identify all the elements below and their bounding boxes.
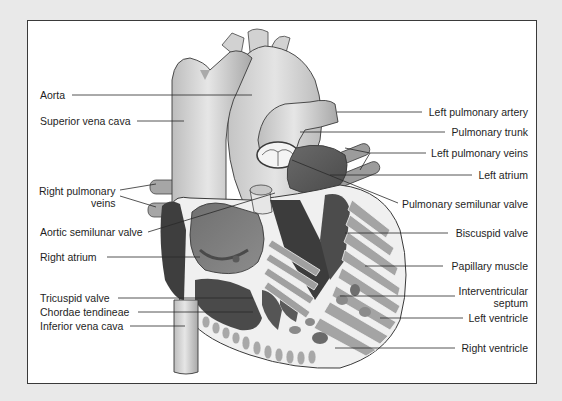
label-chordae-tendineae: Chordae tendineae (40, 306, 129, 318)
label-right-pulmonary-veins: Right pulmonary (39, 185, 115, 197)
label-pulmonary-trunk: Pulmonary trunk (452, 126, 528, 138)
label-left-pulmonary-artery: Left pulmonary artery (429, 106, 528, 118)
label-interventricular-septum-line2: septum (494, 297, 528, 309)
label-left-pulmonary-veins: Left pulmonary veins (431, 147, 528, 159)
label-aorta: Aorta (40, 89, 65, 101)
label-inferior-vena-cava: Inferior vena cava (40, 320, 123, 332)
label-aortic-semilunar-valve: Aortic semilunar valve (40, 226, 143, 238)
label-biscuspid-valve: Biscuspid valve (456, 227, 528, 239)
label-tricuspid-valve: Tricuspid valve (40, 292, 110, 304)
label-right-ventricle: Right ventricle (461, 342, 528, 354)
label-papillary-muscle: Papillary muscle (452, 260, 528, 272)
label-interventricular-septum: Interventricular (459, 285, 528, 297)
label-superior-vena-cava: Superior vena cava (40, 115, 130, 127)
label-right-pulmonary-veins-line2: veins (91, 197, 116, 209)
label-right-atrium: Right atrium (40, 251, 97, 263)
label-pulmonary-semilunar-valve: Pulmonary semilunar valve (402, 198, 528, 210)
label-left-ventricle: Left ventricle (468, 312, 528, 324)
label-left-atrium: Left atrium (478, 169, 528, 181)
